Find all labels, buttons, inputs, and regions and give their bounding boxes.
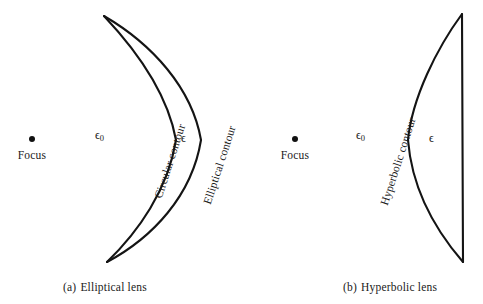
permittivity-outer-elliptical-subscript: 0 — [100, 133, 104, 143]
caption-hyperbolic-lens: (b)Hyperbolic lens — [343, 281, 437, 293]
permittivity-outer-hyperbolic-subscript: 0 — [361, 133, 365, 143]
focus-point-hyperbolic — [292, 136, 298, 142]
hyperbolic-contour-path — [408, 14, 463, 262]
lens-figure: Focus ϵ0 ϵ Circular contour Elliptical c… — [0, 0, 483, 304]
caption-elliptical-lens: (a)Elliptical lens — [63, 281, 147, 293]
permittivity-outer-elliptical: ϵ0 — [95, 128, 104, 143]
lens-outline-drawing — [0, 0, 483, 304]
permittivity-inner-hyperbolic: ϵ — [429, 131, 434, 146]
focus-point-elliptical — [29, 136, 35, 142]
caption-text-b: Hyperbolic lens — [361, 281, 437, 293]
hyperbolic-lens-flat-face — [462, 14, 463, 262]
focus-label-elliptical: Focus — [2, 149, 62, 161]
focus-label-hyperbolic: Focus — [265, 149, 325, 161]
caption-index-a: (a) — [63, 281, 76, 293]
caption-text-a: Elliptical lens — [80, 281, 147, 293]
permittivity-outer-hyperbolic: ϵ0 — [356, 128, 365, 143]
caption-index-b: (b) — [343, 281, 357, 293]
circular-contour-path — [104, 16, 176, 262]
elliptical-contour-path — [104, 16, 201, 262]
